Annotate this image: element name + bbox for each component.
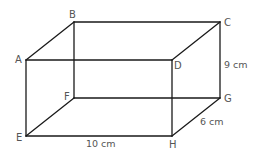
- vertex-label-g: G: [224, 93, 232, 104]
- edge-CD: [172, 22, 220, 60]
- height-dimension-label: 9 cm: [224, 59, 248, 70]
- width-dimension-label: 6 cm: [200, 116, 224, 127]
- vertex-label-c: C: [224, 17, 231, 28]
- vertex-label-d: D: [174, 60, 182, 71]
- vertex-label-f: F: [64, 91, 70, 102]
- length-dimension-label: 10 cm: [86, 138, 116, 149]
- vertex-label-a: A: [15, 54, 22, 65]
- vertex-label-b: B: [69, 9, 76, 20]
- cuboid-diagram: A B C D E F G H 9 cm 10 cm 6 cm: [0, 0, 256, 162]
- edge-EF: [26, 98, 74, 136]
- edge-AB: [26, 22, 74, 60]
- vertex-label-e: E: [16, 132, 22, 143]
- vertex-label-h: H: [169, 139, 177, 150]
